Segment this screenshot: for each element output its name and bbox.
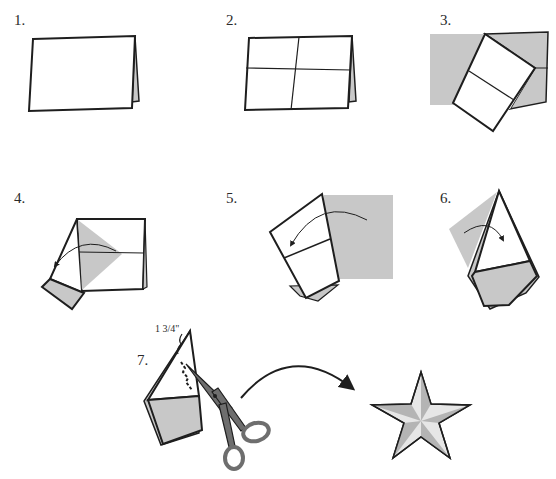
- step-7-label: 7.: [137, 352, 148, 369]
- step-4-figure: [42, 219, 147, 309]
- step-7-figure: [144, 331, 352, 469]
- step-6-label: 6.: [440, 190, 451, 207]
- step-3-label: 3.: [440, 12, 451, 29]
- star-icon: [372, 372, 470, 458]
- step-1-figure: [29, 36, 139, 111]
- folding-diagram: [0, 0, 556, 479]
- step-3-figure: [430, 32, 548, 131]
- step-5-label: 5.: [226, 190, 237, 207]
- step-5-figure: [270, 194, 393, 301]
- step-2-label: 2.: [226, 12, 237, 29]
- step-2-figure: [245, 36, 356, 110]
- step-6-figure: [449, 191, 539, 309]
- measurement-label: 1 3/4": [155, 323, 179, 334]
- step-1-label: 1.: [14, 12, 25, 29]
- step-4-label: 4.: [14, 190, 25, 207]
